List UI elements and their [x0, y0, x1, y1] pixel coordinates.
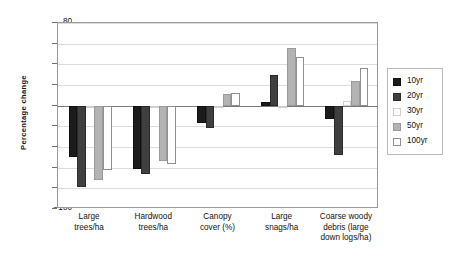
bar	[159, 106, 168, 162]
bar	[296, 57, 305, 106]
bar	[103, 106, 112, 170]
bar	[69, 106, 78, 158]
legend: 10yr20yr30yr50yr100yr	[387, 68, 443, 155]
bar	[86, 106, 95, 108]
gridline	[58, 44, 377, 45]
bar	[133, 106, 142, 169]
bar	[278, 106, 287, 108]
bar	[197, 106, 206, 124]
legend-swatch-icon	[393, 138, 401, 146]
legend-swatch-icon	[393, 78, 401, 86]
bar	[206, 106, 215, 129]
x-axis-category-label: Coarse woodydebris (largedown logs/ha)	[306, 212, 386, 244]
legend-swatch-icon	[393, 108, 401, 116]
bar	[223, 94, 232, 105]
bar	[214, 106, 223, 108]
legend-label: 100yr	[407, 137, 427, 145]
bar	[77, 106, 86, 188]
gridline	[58, 64, 377, 65]
bar	[167, 106, 176, 164]
legend-label: 10yr	[407, 77, 423, 85]
bar	[343, 101, 352, 106]
legend-label: 20yr	[407, 92, 423, 100]
bar	[94, 106, 103, 180]
legend-item[interactable]: 100yr	[393, 134, 438, 149]
chart-figure: Percentage change 806040200−20−40−60−80−…	[0, 0, 453, 276]
legend-label: 50yr	[407, 122, 423, 130]
legend-item[interactable]: 50yr	[393, 119, 438, 134]
bar	[270, 75, 279, 106]
plot-area	[57, 22, 378, 208]
gridline	[58, 188, 377, 189]
bar	[150, 106, 159, 108]
y-axis-title: Percentage change	[19, 38, 28, 188]
bar	[360, 68, 369, 105]
legend-swatch-icon	[393, 123, 401, 131]
x-axis-category-label-line: down logs/ha)	[306, 233, 386, 244]
bar	[141, 106, 150, 174]
bar	[231, 93, 240, 105]
bar	[325, 106, 334, 119]
y-axis-tick-mark	[52, 208, 57, 209]
legend-label: 30yr	[407, 107, 423, 115]
x-axis-category-label-line: debris (large	[306, 223, 386, 234]
bar	[261, 102, 270, 106]
bar	[351, 81, 360, 106]
x-axis-category-label-line: Coarse woody	[306, 212, 386, 223]
legend-item[interactable]: 10yr	[393, 74, 438, 89]
legend-swatch-icon	[393, 93, 401, 101]
bar	[287, 48, 296, 106]
legend-item[interactable]: 20yr	[393, 89, 438, 104]
legend-item[interactable]: 30yr	[393, 104, 438, 119]
gridline	[58, 23, 377, 24]
gridline	[58, 85, 377, 86]
bar	[334, 106, 343, 156]
